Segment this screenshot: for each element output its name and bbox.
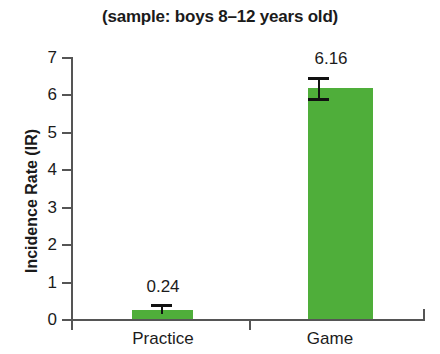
y-tick-3: [62, 207, 72, 209]
bar-game[interactable]: [308, 88, 373, 319]
x-tick-origin: [71, 320, 73, 330]
bar-value-label-practice: 0.24: [103, 278, 223, 295]
y-tick-5: [62, 132, 72, 134]
y-tick-label-6: 6: [17, 86, 57, 103]
y-tick-label-1: 1: [17, 274, 57, 291]
y-tick-2: [62, 244, 72, 246]
y-tick-1: [62, 282, 72, 284]
bar-value-label-game: 6.16: [271, 50, 391, 67]
y-tick-label-3: 3: [17, 199, 57, 216]
y-tick-label-2: 2: [17, 236, 57, 253]
y-tick-6: [62, 94, 72, 96]
y-tick-label-4: 4: [17, 161, 57, 178]
chart-title: (sample: boys 8–12 years old): [0, 7, 440, 27]
x-tick-label-game: Game: [255, 329, 405, 349]
error-bar-game-cap-lower: [308, 98, 329, 101]
error-bar-practice-cap-upper: [151, 304, 172, 307]
y-tick-label-5: 5: [17, 124, 57, 141]
y-tick-label-0: 0: [17, 311, 57, 328]
error-bar-game-cap-upper: [308, 77, 329, 80]
x-axis-line: [71, 319, 425, 321]
x-tick-separator: [249, 320, 251, 330]
x-axis-end-cap: [423, 309, 425, 320]
bar-chart: (sample: boys 8–12 years old) Incidence …: [0, 0, 440, 354]
y-tick-4: [62, 169, 72, 171]
y-tick-7: [62, 57, 72, 59]
y-tick-label-7: 7: [17, 49, 57, 66]
x-tick-label-practice: Practice: [88, 329, 238, 349]
